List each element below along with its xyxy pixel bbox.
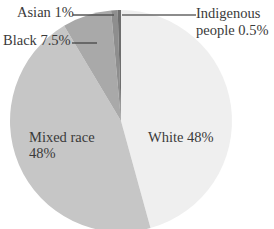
label-asian: Asian 1% <box>17 5 74 20</box>
label-black: Black 7.5% <box>3 33 71 48</box>
label-indigenous-line1: Indigenous <box>196 5 268 22</box>
label-mixed-line1: Mixed race <box>29 129 95 145</box>
label-mixed-race: Mixed race 48% <box>29 129 95 161</box>
label-white: White 48% <box>148 130 214 145</box>
label-indigenous: Indigenous people 0.5% <box>196 5 268 39</box>
label-indigenous-line2: people 0.5% <box>196 22 268 39</box>
label-mixed-line2: 48% <box>29 145 95 161</box>
